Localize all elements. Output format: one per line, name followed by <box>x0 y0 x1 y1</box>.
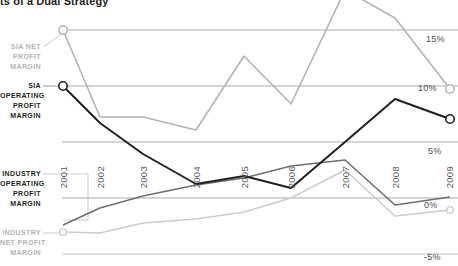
legend-line: PROFIT <box>0 189 41 199</box>
legend-line: PROFIT <box>0 101 41 111</box>
legend-line: PROFIT <box>0 52 41 62</box>
y-tick-10: 10% <box>418 83 437 93</box>
x-tick-2005: 2005 <box>239 166 250 188</box>
legend-sia-operating-profit-margin: SIA OPERATING PROFIT MARGIN <box>0 81 41 121</box>
legend-line: SIA <box>0 81 41 91</box>
x-tick-2007: 2007 <box>340 166 351 188</box>
chart-plot-area <box>0 0 458 266</box>
chart-container: ts of a Dual Strategy <box>0 0 458 266</box>
legend-line: MARGIN <box>0 62 41 72</box>
legend-line: INDUSTRY <box>0 228 41 238</box>
legend-industry-operating-profit-margin: INDUSTRY OPERATING PROFIT MARGIN <box>0 169 41 209</box>
legend-leader-lines <box>43 33 88 233</box>
x-tick-2006: 2006 <box>286 166 297 188</box>
legend-line: OPERATING <box>0 179 41 189</box>
legend-line: MARGIN <box>0 199 41 209</box>
x-tick-2001: 2001 <box>58 166 69 188</box>
x-tick-2004: 2004 <box>191 166 202 188</box>
legend-line: INDUSTRY <box>0 169 41 179</box>
x-tick-2009: 2009 <box>444 166 455 188</box>
y-tick-15: 15% <box>426 34 445 44</box>
legend-line: MARGIN <box>0 111 41 121</box>
legend-line: NET PROFIT <box>0 238 41 248</box>
legend-line: SIA NET <box>0 42 41 52</box>
gridlines <box>62 30 458 254</box>
legend-line: OPERATING <box>0 91 41 101</box>
legend-sia-net-profit-margin: SIA NET PROFIT MARGIN <box>0 42 41 72</box>
legend-industry-net-profit-margin: INDUSTRY NET PROFIT MARGIN <box>0 228 41 258</box>
legend-line: MARGIN <box>0 248 41 258</box>
x-tick-2002: 2002 <box>95 166 106 188</box>
y-tick-0: 0% <box>424 200 437 210</box>
x-tick-2008: 2008 <box>390 166 401 188</box>
series-sia-net-profit-margin <box>59 0 454 130</box>
x-tick-2003: 2003 <box>138 166 149 188</box>
y-tick-neg5: -5% <box>424 252 441 262</box>
y-tick-5: 5% <box>428 146 441 156</box>
